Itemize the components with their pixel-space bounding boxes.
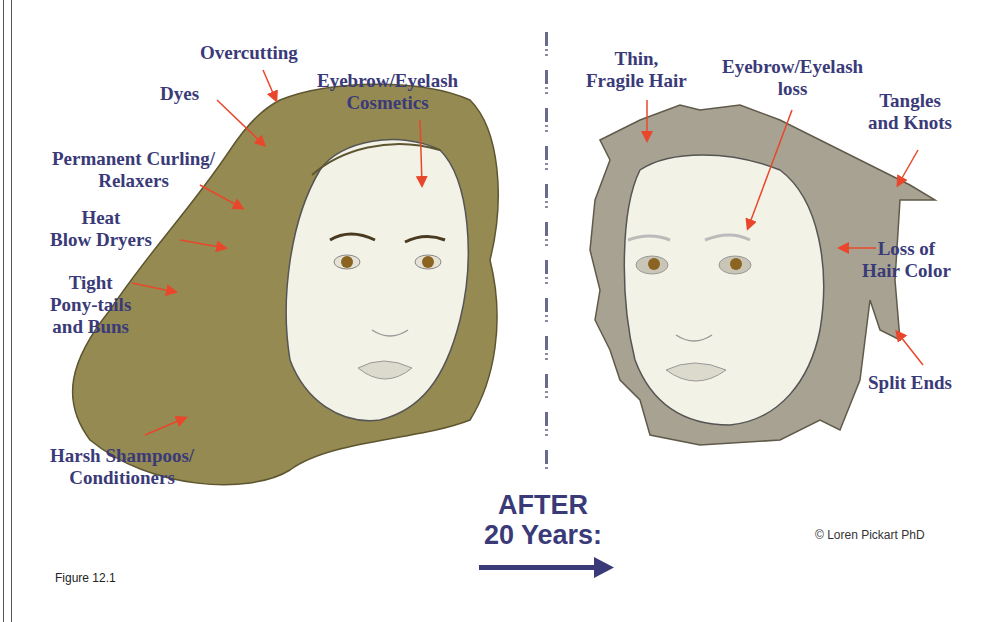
label-dyes: Dyes bbox=[160, 83, 199, 105]
figure-caption: Figure 12.1 bbox=[55, 571, 116, 585]
after-20-years-heading: AFTER 20 Years: bbox=[478, 490, 608, 550]
label-heat-blow-dryers: Heat Blow Dryers bbox=[50, 207, 152, 251]
label-eyebrow-cosmetics: Eyebrow/Eyelash Cosmetics bbox=[317, 70, 458, 114]
label-harsh-shampoos: Harsh Shampoos/ Conditioners bbox=[50, 445, 194, 489]
label-overcutting: Overcutting bbox=[200, 42, 298, 64]
dash-dot-divider bbox=[545, 32, 548, 472]
label-thin-fragile-hair: Thin, Fragile Hair bbox=[586, 48, 687, 92]
right-arrow-icon bbox=[479, 557, 614, 578]
label-tangles-knots: Tangles and Knots bbox=[868, 90, 952, 134]
label-permanent-curling: Permanent Curling/ Relaxers bbox=[52, 148, 215, 192]
label-tight-ponytails: Tight Pony-tails and Buns bbox=[50, 272, 131, 338]
label-eyebrow-loss: Eyebrow/Eyelash loss bbox=[722, 56, 863, 100]
label-split-ends: Split Ends bbox=[868, 372, 952, 394]
copyright-notice: © Loren Pickart PhD bbox=[815, 528, 925, 542]
label-loss-hair-color: Loss of Hair Color bbox=[862, 238, 951, 282]
